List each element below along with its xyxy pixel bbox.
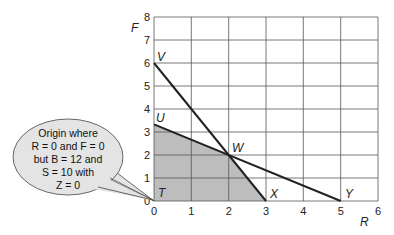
svg-text:0: 0	[151, 205, 157, 217]
point-label-u: U	[156, 111, 165, 125]
svg-text:5: 5	[144, 80, 150, 92]
svg-text:S = 10 with: S = 10 with	[42, 166, 94, 178]
x-axis-ticks: 0 1 2 3 4 5 6	[151, 205, 381, 217]
svg-text:2: 2	[226, 205, 232, 217]
svg-text:5: 5	[338, 205, 344, 217]
svg-text:7: 7	[144, 34, 150, 46]
y-axis-ticks: 0 1 2 3 4 5 6 7 8	[144, 11, 150, 207]
linear-programming-chart: 0 1 2 3 4 5 6 7 8 0 1 2 3 4 5 6 F R T U …	[0, 0, 394, 235]
svg-text:Z = 0: Z = 0	[56, 179, 80, 191]
point-label-y: Y	[345, 187, 354, 201]
x-axis-label: R	[360, 215, 369, 229]
svg-text:4: 4	[300, 205, 306, 217]
y-axis-label: F	[131, 21, 139, 35]
svg-text:4: 4	[144, 103, 150, 115]
svg-text:R = 0 and F = 0: R = 0 and F = 0	[32, 140, 105, 152]
svg-text:2: 2	[144, 149, 150, 161]
svg-text:but B = 12 and: but B = 12 and	[34, 153, 103, 165]
svg-text:3: 3	[263, 205, 269, 217]
svg-text:Origin where: Origin where	[38, 127, 98, 139]
svg-text:6: 6	[375, 205, 381, 217]
point-label-x: X	[269, 187, 279, 201]
svg-text:8: 8	[144, 11, 150, 23]
point-label-v: V	[157, 50, 166, 64]
origin-callout: Origin where R = 0 and F = 0 but B = 12 …	[13, 119, 154, 201]
svg-text:1: 1	[188, 205, 194, 217]
svg-text:6: 6	[144, 57, 150, 69]
point-label-w: W	[232, 141, 245, 155]
svg-text:3: 3	[144, 126, 150, 138]
svg-text:1: 1	[144, 172, 150, 184]
